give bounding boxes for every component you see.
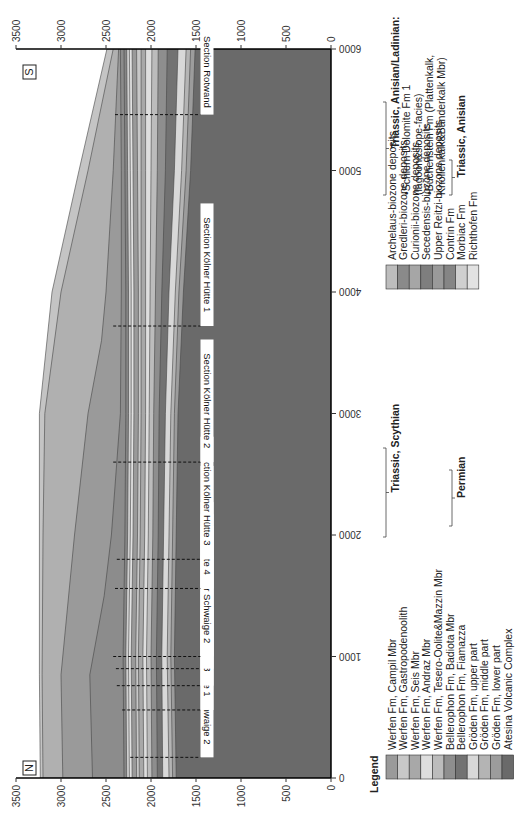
legend-label: Richthofen Fm — [467, 191, 479, 260]
legend-label: Werfen Fm, Campil Mbr — [386, 638, 398, 750]
group-bullet-text: •Schlern Dolomite Fm 1 — [400, 84, 412, 195]
geological-cross-section-figure: 0050050010001000150015002000200025002500… — [0, 0, 526, 814]
elev-tick-label-top: 500 — [281, 25, 292, 42]
group-triassic-scythian: Triassic, Scythian — [389, 404, 401, 493]
legend-label: Gröden Fm, lower part — [490, 645, 502, 750]
legend-label: Werfen Fm, Andraz Mbr — [420, 638, 432, 750]
dist-tick-label: 3000 — [339, 408, 362, 419]
dist-tick-label: 4000 — [339, 286, 362, 297]
dist-tick-label: 5000 — [339, 165, 362, 176]
elev-tick-label-top: 0 — [326, 36, 337, 42]
group-bullet-text: •Buchenstein Fm (Plattenkalk, — [423, 55, 435, 195]
legend-label: Archelaus-biozone deposits — [386, 131, 398, 260]
elev-tick-label-top: 2000 — [146, 19, 157, 42]
legend-swatch — [467, 755, 479, 779]
elev-tick-label-top: 3500 — [11, 19, 22, 42]
legend-label: Gröden Fm, upper part — [467, 643, 479, 750]
legend-label: Werfen Fm, Gastropodenoolith — [397, 606, 409, 750]
section-label: Section Kölner Hütte 3 — [202, 450, 213, 545]
layers — [39, 49, 331, 778]
group-permian-bracket — [449, 470, 452, 526]
elev-tick-label-top: 1000 — [236, 19, 247, 42]
elev-tick-label-bottom: 3000 — [56, 785, 67, 808]
dist-tick-label: 2000 — [339, 529, 362, 540]
legend-label: Bellerophon Fm, Badiota Mbr — [444, 613, 456, 750]
legend-swatch — [398, 755, 410, 779]
elev-tick-label-top: 1500 — [191, 19, 202, 42]
legend-label: Bellerophon Fm, Fiamazza — [455, 624, 467, 750]
elev-tick-label-bottom: 1500 — [191, 785, 202, 808]
legend-swatch — [490, 755, 502, 779]
compass-north-label: N — [23, 764, 35, 772]
legend-swatch — [409, 755, 421, 779]
elev-tick-label-bottom: 2000 — [146, 785, 157, 808]
legend-swatch — [409, 265, 421, 289]
legend-swatch — [502, 755, 514, 779]
legend-label: Werfen Fm, Seis Mbr — [409, 651, 421, 750]
dist-tick-label: 1000 — [339, 651, 362, 662]
section-label: Section Rotwand — [202, 36, 213, 108]
legend-label: Morbiac Fm — [455, 204, 467, 260]
legend-swatch — [456, 265, 468, 289]
legend-swatch — [386, 265, 398, 289]
elev-tick-label-bottom: 500 — [281, 785, 292, 802]
legend-swatch — [386, 755, 398, 779]
group-permian: Permian — [455, 457, 467, 498]
legend-label: Werfen Fm, Tesero-Oolite&Mazzin Mbr — [432, 568, 444, 750]
legend-swatch — [444, 755, 456, 779]
elev-tick-label-top: 3000 — [56, 19, 67, 42]
plot-area — [39, 49, 331, 778]
legend-swatch — [421, 265, 433, 289]
group-bullet-text: Knollenkalk&Bänderkalk Mbr) — [435, 57, 447, 195]
legend-swatch — [432, 265, 444, 289]
legend-swatch — [456, 755, 468, 779]
dist-tick-label: 0 — [339, 772, 345, 783]
group-triassic-anisian-bracket — [449, 160, 452, 195]
legend-swatch — [479, 755, 491, 779]
legend-label: Atesina Volcanic Complex — [502, 628, 514, 750]
group-bullet-text: (lagoon&slope-facies) — [412, 93, 424, 195]
elev-tick-label-bottom: 1000 — [236, 785, 247, 808]
elev-tick-label-bottom: 0 — [326, 785, 337, 791]
group-triassic-scythian-bracket — [383, 448, 386, 537]
section-label: Section Kölner Hütte 2 — [202, 353, 213, 448]
elev-tick-label-bottom: 3500 — [11, 785, 22, 808]
legend-label: Gröden Fm, middle part — [478, 639, 490, 750]
elev-tick-label-bottom: 2500 — [101, 785, 112, 808]
dist-tick-label: 6000 — [339, 43, 362, 54]
legend-swatch — [432, 755, 444, 779]
legend-label: Contrin Fm — [444, 208, 456, 260]
legend: LegendWerfen Fm, Campil MbrWerfen Fm, Ga… — [368, 16, 514, 793]
compass-south-label: S — [23, 68, 35, 75]
legend-swatch — [421, 755, 433, 779]
legend-swatch — [398, 265, 410, 289]
elev-tick-label-top: 2500 — [101, 19, 112, 42]
legend-title: Legend — [368, 756, 380, 793]
group-triassic-anisian: Triassic, Anisian — [455, 95, 467, 177]
section-label: Section Kölner Hütte 1 — [202, 217, 213, 312]
legend-swatch — [467, 265, 479, 289]
legend-swatch — [444, 265, 456, 289]
